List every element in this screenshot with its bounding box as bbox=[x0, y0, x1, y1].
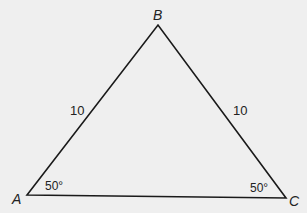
angle-label-a: 50° bbox=[45, 180, 63, 192]
vertex-label-c: C bbox=[289, 194, 299, 208]
side-label-ab: 10 bbox=[70, 104, 84, 117]
angle-label-c: 50° bbox=[250, 182, 268, 194]
vertex-label-a: A bbox=[12, 192, 21, 206]
vertex-label-b: B bbox=[153, 8, 162, 22]
side-label-bc: 10 bbox=[233, 104, 247, 117]
